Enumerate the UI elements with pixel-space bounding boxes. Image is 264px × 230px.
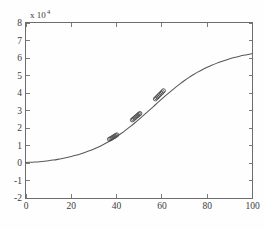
chart-background <box>0 0 264 230</box>
figure-container: 020406080100 -2-1012345678 x 10 4 <box>0 0 264 230</box>
svg-text:2: 2 <box>17 123 22 133</box>
svg-text:4: 4 <box>17 88 22 98</box>
svg-text:8: 8 <box>17 18 22 28</box>
line-chart: 020406080100 -2-1012345678 x 10 4 <box>0 0 264 230</box>
svg-text:40: 40 <box>112 201 122 211</box>
svg-text:80: 80 <box>202 201 212 211</box>
svg-text:6: 6 <box>17 53 22 63</box>
svg-text:5: 5 <box>17 71 22 81</box>
svg-text:0: 0 <box>24 201 29 211</box>
svg-text:3: 3 <box>17 106 22 116</box>
svg-text:0: 0 <box>17 158 22 168</box>
svg-text:1: 1 <box>17 141 22 151</box>
svg-text:x 10: x 10 <box>30 10 46 20</box>
svg-text:-1: -1 <box>14 176 22 186</box>
svg-text:20: 20 <box>67 201 77 211</box>
svg-text:60: 60 <box>157 201 167 211</box>
svg-text:-2: -2 <box>14 193 22 203</box>
svg-text:7: 7 <box>17 36 22 46</box>
svg-text:100: 100 <box>245 201 260 211</box>
